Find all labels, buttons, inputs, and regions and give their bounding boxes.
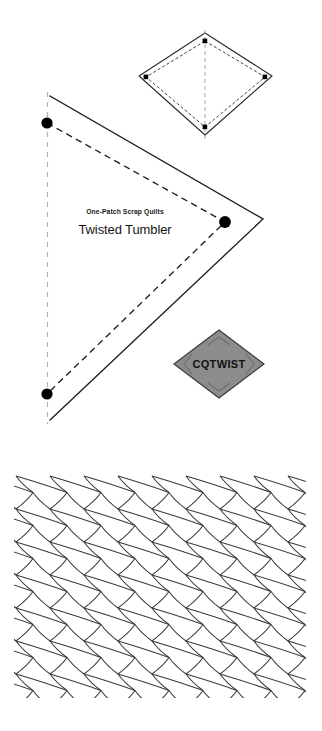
lattice-edge (50, 691, 67, 708)
patch-seam-outline (146, 41, 265, 127)
patch-vertex-marker (203, 39, 208, 44)
lattice-edge (50, 658, 67, 675)
lattice-edge (152, 691, 169, 708)
lattice-edge (186, 691, 203, 708)
lattice-edge (152, 559, 169, 576)
lattice-edge (0, 493, 16, 510)
lattice-edge (288, 575, 322, 592)
patch-vertex-marker (203, 125, 208, 130)
lattice-edge (254, 625, 271, 642)
lattice-edge (135, 592, 152, 609)
lattice-edge (135, 658, 152, 675)
lattice-edge (67, 526, 84, 543)
lattice-edge (118, 625, 135, 642)
lattice-edge (220, 691, 237, 708)
lattice-edge (186, 526, 203, 543)
lattice-edge (50, 625, 67, 642)
lattice-edge (152, 658, 169, 675)
lattice-edge (0, 526, 16, 543)
lattice-edge (237, 526, 254, 543)
patch-vertex-marker (263, 75, 268, 80)
lattice-edge (288, 641, 322, 658)
lattice-edge (203, 625, 220, 642)
template-corner-dot (41, 117, 52, 128)
quilt-lattice-svg (0, 440, 322, 731)
lattice-edge (0, 575, 33, 592)
lattice-edge (0, 674, 33, 691)
lattice-edge (84, 691, 101, 708)
lattice-edge (254, 526, 271, 543)
lattice-edge (220, 526, 237, 543)
cqtwist-badge: CQTWIST (174, 330, 264, 398)
lattice-edge (152, 493, 169, 510)
lattice-edge (84, 658, 101, 675)
lattice-edge (203, 559, 220, 576)
lattice-edge (33, 592, 50, 609)
lattice-edge (135, 526, 152, 543)
lattice-edge (16, 625, 33, 642)
lattice-edge (237, 625, 254, 642)
lattice-edge (118, 526, 135, 543)
lattice-edge (288, 674, 322, 691)
lattice-edge (237, 658, 254, 675)
lattice-edge (169, 559, 186, 576)
lattice-edge (237, 691, 254, 708)
lattice-edge (152, 625, 169, 642)
lattice-edge (305, 493, 322, 510)
lattice-edge (101, 493, 118, 510)
page-root: CQTWIST One-Patch Scrap Quilts Twisted T… (0, 0, 322, 731)
lattice-edge (169, 493, 186, 510)
lattice-edge (101, 658, 118, 675)
lattice-edge (169, 526, 186, 543)
lattice-edge (288, 526, 305, 543)
lattice-edge (0, 658, 16, 675)
lattice-edge (67, 592, 84, 609)
lattice-edge (84, 625, 101, 642)
lattice-edge (186, 625, 203, 642)
lattice-edge (254, 493, 271, 510)
lattice-edge (169, 691, 186, 708)
lattice-edge (0, 509, 33, 526)
lattice-edge (203, 526, 220, 543)
lattice-edge (135, 493, 152, 510)
patch-vertex-marker (144, 75, 149, 80)
lattice-edge (50, 559, 67, 576)
lattice-edge (16, 691, 33, 708)
template-label-block: One-Patch Scrap Quilts Twisted Tumbler (62, 208, 188, 237)
lattice-edge (0, 542, 33, 559)
lattice-edge (0, 641, 33, 658)
lattice-edge (101, 559, 118, 576)
lattice-edge (254, 592, 271, 609)
lattice-edge (288, 658, 305, 675)
lattice-edge (288, 493, 305, 510)
lattice-edge (288, 691, 305, 708)
lattice-edge (169, 592, 186, 609)
lattice-edge (237, 592, 254, 609)
lattice-edge (84, 592, 101, 609)
lattice-edge (186, 559, 203, 576)
lattice-edge (305, 691, 322, 708)
lattice-edge (271, 493, 288, 510)
lattice-edge (33, 691, 50, 708)
lattice-edge (203, 493, 220, 510)
lattice-edge (288, 559, 305, 576)
lattice-edge (203, 658, 220, 675)
lattice-edge (254, 691, 271, 708)
lattice-edge (0, 608, 33, 625)
lattice-edge (50, 493, 67, 510)
lattice-edge (203, 592, 220, 609)
lattice-edge (288, 608, 322, 625)
lattice-edge (220, 658, 237, 675)
lattice-edge (84, 559, 101, 576)
lattice-edge (118, 592, 135, 609)
lattice-edge (271, 526, 288, 543)
lattice-edge (67, 493, 84, 510)
lattice-edge (254, 559, 271, 576)
lattice-edge (101, 592, 118, 609)
template-corner-dot (219, 216, 231, 228)
lattice-edge (254, 658, 271, 675)
lattice-edge (271, 625, 288, 642)
lattice-edge (33, 658, 50, 675)
tumbler-patch-diagram (139, 30, 272, 139)
lattice-edge (237, 559, 254, 576)
